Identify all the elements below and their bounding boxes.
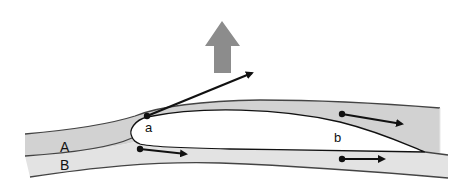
point-a-dot [144, 113, 150, 119]
label-point-b: b [334, 130, 341, 145]
lower-flow-rear-dot [339, 156, 345, 162]
label-stream-a: A [60, 139, 70, 155]
lift-arrow-icon [205, 21, 240, 73]
airfoil-diagram: a b A B [0, 0, 471, 192]
label-stream-b: B [60, 157, 69, 173]
label-point-a: a [145, 120, 153, 135]
lower-flow-front-dot [137, 146, 143, 152]
upper-flow-dot [339, 111, 345, 117]
